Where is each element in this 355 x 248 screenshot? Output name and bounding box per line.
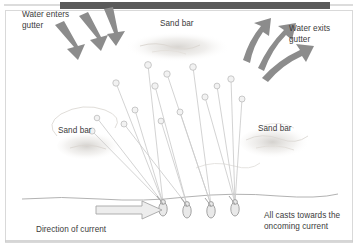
anglers bbox=[157, 196, 239, 218]
label-water-enters-gutter: Water enters gutter bbox=[22, 10, 69, 31]
current-arrow bbox=[96, 201, 162, 219]
label-water-exits-gutter: Water exits gutter bbox=[289, 24, 330, 45]
label-sand-bar-left: Sand bar bbox=[58, 126, 92, 137]
label-all-casts: All casts towards the oncoming current bbox=[264, 211, 340, 232]
label-sand-bar-right: Sand bar bbox=[258, 124, 292, 135]
top-rule bbox=[60, 2, 330, 9]
label-sand-bar-top: Sand bar bbox=[160, 19, 194, 30]
label-direction-of-current: Direction of current bbox=[36, 225, 106, 236]
sand-bar-top-shape bbox=[126, 32, 230, 62]
diagram-canvas: Water enters gutter Sand bar Water exits… bbox=[0, 0, 355, 248]
shoreline bbox=[22, 194, 338, 200]
inflow-arrow-3 bbox=[104, 7, 125, 46]
splash-markers bbox=[89, 62, 245, 135]
